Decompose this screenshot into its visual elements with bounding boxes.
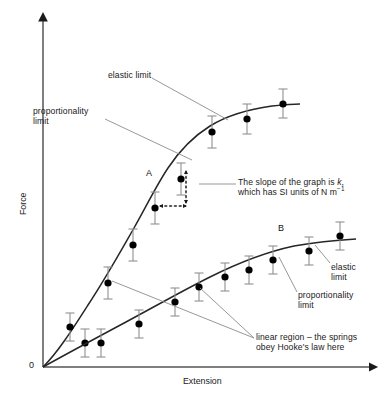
curve-a-points	[66, 100, 286, 346]
leader-proportionality-limit-b	[279, 257, 297, 292]
data-point	[305, 247, 312, 254]
data-point	[208, 128, 215, 135]
x-axis-label: Extension	[183, 376, 222, 386]
linear-region-line1: linear region – the springs	[256, 332, 357, 342]
data-point	[151, 204, 158, 211]
elastic-limit-b-line2: limit	[331, 272, 347, 282]
annotation-linear-region: linear region – the springs obey Hooke's…	[256, 332, 389, 353]
linear-region-line2: obey Hooke's law here	[256, 342, 344, 352]
annotation-proportionality-limit-a: proportionality limit	[33, 106, 128, 127]
proportionality-limit-b-line1: proportionality	[298, 290, 353, 300]
origin-label: 0	[29, 360, 34, 370]
curve-a-line	[43, 104, 300, 367]
data-point	[279, 100, 286, 107]
data-point	[243, 115, 250, 122]
data-point	[269, 256, 276, 263]
leader-linear-region-to-b	[200, 288, 254, 338]
slope-note-exponent: −1	[337, 186, 344, 193]
leader-elastic-limit-a	[152, 78, 228, 120]
proportionality-limit-a-line2: limit	[33, 116, 49, 126]
elastic-limit-b-line1: elastic	[331, 262, 356, 272]
data-point	[336, 232, 343, 239]
annotation-slope-note: The slope of the graph is k, which has S…	[238, 177, 389, 198]
curve-label-b: B	[278, 223, 284, 233]
data-point	[177, 175, 184, 182]
data-point	[221, 273, 228, 280]
y-axis-label: Force	[18, 193, 28, 216]
data-point	[66, 323, 73, 330]
data-point	[245, 266, 252, 273]
slope-note-line1-prefix: The slope of the graph is	[238, 177, 337, 187]
curve-label-a: A	[146, 168, 152, 178]
leader-elastic-limit-b	[315, 245, 330, 263]
annotation-elastic-limit-b: elastic limit	[331, 262, 387, 283]
proportionality-limit-a-line1: proportionality	[33, 106, 88, 116]
data-point	[171, 298, 178, 305]
data-point	[104, 279, 111, 286]
proportionality-limit-b-line2: limit	[298, 300, 314, 310]
annotation-elastic-limit-a: elastic limit	[108, 70, 151, 80]
slope-note-line2-prefix: which has SI units of N m	[238, 187, 337, 197]
leader-lines	[105, 78, 330, 338]
annotation-proportionality-limit-b: proportionality limit	[298, 290, 388, 311]
data-point	[135, 320, 142, 327]
leader-linear-region-to-a	[112, 281, 254, 338]
data-point	[129, 241, 136, 248]
data-point	[97, 339, 104, 346]
curve-a-errorbars	[66, 89, 288, 357]
force-extension-diagram: elastic limit proportionality limit The …	[0, 0, 389, 396]
curve-a-group	[43, 89, 300, 367]
